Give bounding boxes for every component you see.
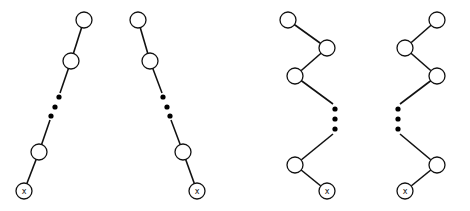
ellipsis-dot xyxy=(160,94,165,99)
tree-node xyxy=(142,53,158,69)
tree-node xyxy=(76,12,92,28)
ellipsis-dot xyxy=(52,104,57,109)
tree-node xyxy=(130,12,146,28)
ellipsis-dot xyxy=(395,126,400,131)
tree-diagram-canvas: x x x x xyxy=(0,0,470,211)
tree-node xyxy=(429,12,445,28)
tree-node xyxy=(397,40,413,56)
tree-node xyxy=(287,157,303,173)
ellipsis-dot xyxy=(56,94,61,99)
tree-zigzag-right: x xyxy=(395,12,445,199)
tree-node xyxy=(175,144,191,160)
end-node-label: x xyxy=(195,187,200,196)
ellipsis-dot xyxy=(167,113,172,118)
tree-node xyxy=(429,68,445,84)
ellipsis-dot xyxy=(332,106,337,111)
tree-straight-left: x xyxy=(16,12,92,199)
tree-node xyxy=(63,53,79,69)
tree-node xyxy=(31,144,47,160)
tree-straight-right: x xyxy=(130,12,205,199)
ellipsis-dot xyxy=(395,106,400,111)
end-node-label: x xyxy=(22,187,27,196)
tree-node xyxy=(280,12,296,28)
ellipsis-dot xyxy=(164,104,169,109)
ellipsis-dot xyxy=(395,116,400,121)
ellipsis-dot xyxy=(48,113,53,118)
tree-node xyxy=(429,157,445,173)
tree-node xyxy=(319,40,335,56)
ellipsis-dot xyxy=(332,126,337,131)
tree-zigzag-left: x xyxy=(280,12,338,199)
ellipsis-dot xyxy=(332,116,337,121)
end-node-label: x xyxy=(325,187,330,196)
tree-node xyxy=(287,68,303,84)
end-node-label: x xyxy=(403,187,408,196)
